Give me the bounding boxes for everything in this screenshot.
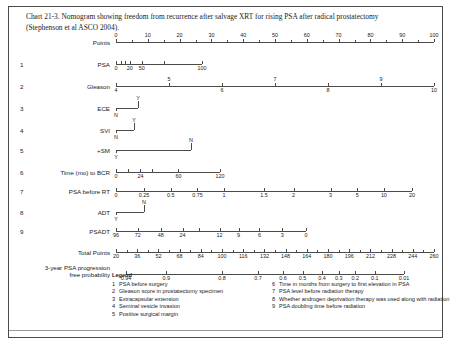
nomogram-page: Chart 21-3. Nomogram showing freedom fro… <box>0 0 451 345</box>
row-label-svi: SVI <box>24 127 110 135</box>
tick-label-gleason: 4 <box>115 87 118 93</box>
tick-minor-total <box>296 250 297 252</box>
tick-label-psadt: 0 <box>305 232 308 238</box>
tick-points <box>339 39 340 42</box>
tick-minor-points <box>355 40 356 42</box>
tick-label-points: 80 <box>367 32 373 38</box>
tick-above-gleason <box>169 83 170 86</box>
binary-label-low-sm: Y <box>114 154 118 160</box>
tick-points <box>370 39 371 42</box>
tick-label-points: 100 <box>430 32 439 38</box>
legend-item-number: 6 <box>272 281 279 289</box>
tick-label-total: 148 <box>281 253 290 259</box>
tick-high-svi <box>134 123 135 130</box>
tick-high-adt <box>144 205 145 212</box>
row-label-psa: PSA <box>24 61 110 69</box>
tick-label-total: 100 <box>218 253 227 259</box>
tick-label-psadt: 3 <box>281 232 284 238</box>
tick-total <box>243 249 244 252</box>
tick-label-psadt: 48 <box>158 232 164 238</box>
tick-psart <box>144 188 145 191</box>
tick-above-gleason <box>381 83 382 86</box>
tick-cap-psart <box>412 188 413 191</box>
tick-psart <box>171 188 172 191</box>
legend-item-text: Whether androgen deprivation therapy was… <box>279 296 449 302</box>
tick-total <box>137 249 138 252</box>
tick-cap-total <box>434 249 435 252</box>
row-label-adt: ADT <box>24 209 110 217</box>
tick-points <box>275 39 276 42</box>
tick-label-above-gleason: 9 <box>380 76 383 82</box>
legend-item-number: 1 <box>112 281 119 289</box>
tick-total <box>264 249 265 252</box>
tick-label-psa: 100 <box>198 65 207 71</box>
tick-label-psart: 0.75 <box>192 192 203 198</box>
tick-minor-points <box>418 40 419 42</box>
tick-cap-points <box>116 39 117 42</box>
tick-psa <box>125 61 126 64</box>
tick-points <box>307 39 308 42</box>
tick-label-points: 50 <box>272 32 278 38</box>
tick-minor-points <box>291 40 292 42</box>
tick-label-total: 260 <box>430 253 439 259</box>
tick-total <box>307 249 308 252</box>
tick-total <box>180 249 181 252</box>
tick-bcr <box>128 169 129 172</box>
binary-label-high-sm: N <box>189 137 193 143</box>
tick-label-bcr: 120 <box>216 173 225 179</box>
tick-minor-points <box>132 40 133 42</box>
tick-minor-points <box>164 40 165 42</box>
tick-label-total: 196 <box>345 253 354 259</box>
tick-label-gleason: 6 <box>221 87 224 93</box>
row-label-points: Points <box>24 39 110 47</box>
tick-label-total: 20 <box>113 253 119 259</box>
tick-psart <box>294 188 295 191</box>
tick-minor-total <box>148 250 149 252</box>
legend-item: 7PSA level before radiation therapy <box>272 288 451 296</box>
tick-label-psadt: 24 <box>180 232 186 238</box>
tick-label-total: 36 <box>134 253 140 259</box>
tick-label-psadt: 12 <box>217 232 223 238</box>
tick-psadt <box>220 228 221 231</box>
tick-psadt <box>282 228 283 231</box>
binary-label-high-adt: N <box>142 199 146 205</box>
tick-psart <box>357 188 358 191</box>
tick-bcr <box>140 169 141 172</box>
tick-psadt <box>239 228 240 231</box>
tick-label-above-gleason: 5 <box>168 76 171 82</box>
tick-label-psart: 1.5 <box>260 192 268 198</box>
tick-label-gleason: 8 <box>327 87 330 93</box>
tick-label-bcr: 24 <box>137 173 143 179</box>
tick-label-points: 70 <box>336 32 342 38</box>
axis-line-sm <box>116 150 191 151</box>
tick-label-bcr: 0 <box>115 173 118 179</box>
tick-minor-total <box>233 250 234 252</box>
tick-psadt <box>259 228 260 231</box>
legend-title: Legend <box>112 272 412 280</box>
tick-minor-total <box>360 250 361 252</box>
tick-points <box>243 39 244 42</box>
legend-item-text: PSA level before radiation therapy <box>279 288 364 294</box>
tick-points <box>180 39 181 42</box>
axis-line-psadt <box>116 231 306 232</box>
tick-label-points: 30 <box>208 32 214 38</box>
legend-item-number: 8 <box>272 296 279 304</box>
row-label-psadt: PSADT <box>24 228 110 236</box>
tick-cap-gleason <box>434 83 435 86</box>
tick-label-psart: 5 <box>356 192 359 198</box>
tick-cap-bcr <box>116 169 117 172</box>
tick-psart <box>331 188 332 191</box>
tick-label-psadt: 96 <box>113 232 119 238</box>
tick-label-psart: 2 <box>292 192 295 198</box>
tick-minor-total <box>339 250 340 252</box>
tick-label-total: 244 <box>408 253 417 259</box>
tick-minor-points <box>386 40 387 42</box>
tick-minor-points <box>323 40 324 42</box>
tick-label-total: 164 <box>302 253 311 259</box>
row-label-gleason: Gleason <box>24 83 110 91</box>
tick-high-ece <box>138 101 139 108</box>
tick-label-points: 20 <box>177 32 183 38</box>
legend-column-right: 6Time in months from surgery to first el… <box>272 281 451 311</box>
legend-item-text: Extracapsular extension <box>119 296 179 302</box>
legend-item: 3Extracapsular extension <box>112 296 272 304</box>
